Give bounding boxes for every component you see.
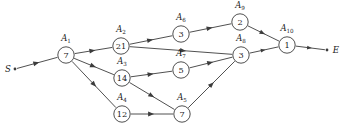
edge-A3-A5 (130, 83, 175, 110)
node-value-A2: 21 (116, 41, 126, 51)
arrow-head-icon (148, 92, 154, 97)
node-label-A6: A6 (175, 12, 186, 23)
node-value-A9: 2 (237, 17, 242, 27)
arrow-head-icon (259, 30, 265, 34)
graph-node-A9[interactable]: 2A9 (232, 0, 248, 30)
edge-A5-A8 (188, 61, 235, 108)
node-label-A5: A5 (176, 92, 187, 103)
edge-A3-A7 (131, 71, 173, 77)
start-node-dot-icon (14, 68, 17, 71)
edge-A8-A10 (250, 47, 279, 53)
graph-node-A4[interactable]: 12A4 (114, 92, 130, 122)
node-value-A6: 3 (178, 29, 183, 39)
edge-A10-E (296, 46, 325, 50)
edge-A4-A5 (131, 112, 173, 117)
arrow-head-icon (206, 26, 212, 31)
activity-network-diagram: 7A121A214A312A47A53A65A73A82A91A10 SE (0, 0, 343, 134)
node-label-A1: A1 (60, 33, 71, 44)
arrow-head-icon (90, 63, 96, 68)
arrow-head-icon (33, 62, 39, 67)
arrow-head-icon (147, 38, 153, 43)
node-label-A10: A10 (279, 23, 294, 34)
arrow-head-icon (147, 72, 153, 77)
edge-A1-A3 (74, 58, 114, 74)
node-value-A3: 14 (117, 73, 127, 83)
edge-A7-A8 (190, 57, 233, 68)
node-value-A7: 5 (178, 65, 183, 75)
node-value-A1: 7 (63, 50, 68, 60)
arrow-head-icon (89, 49, 95, 54)
node-value-A10: 1 (284, 40, 289, 50)
graph-node-A8[interactable]: 3A8 (233, 33, 249, 63)
edge-A6-A9 (190, 24, 232, 33)
edge-A9-A10 (248, 26, 279, 41)
node-value-A5: 7 (179, 109, 184, 119)
graph-node-A7[interactable]: 5A7 (173, 48, 189, 78)
graph-node-A6[interactable]: 3A6 (173, 12, 189, 42)
node-value-A8: 3 (238, 50, 243, 60)
edge-A1-A4 (72, 61, 116, 107)
node-label-A7: A7 (175, 48, 186, 59)
node-value-A4: 12 (117, 109, 127, 119)
graph-node-A5[interactable]: 7A5 (174, 92, 190, 122)
edge-S-A1 (17, 57, 57, 68)
arrow-head-icon (148, 112, 154, 117)
nodes-layer: 7A121A214A312A47A53A65A73A82A91A10 (58, 0, 295, 122)
graph-node-A1[interactable]: 7A1 (58, 33, 74, 63)
graph-node-A10[interactable]: 1A10 (279, 23, 295, 53)
node-label-A4: A4 (116, 92, 127, 103)
arrow-head-icon (307, 46, 312, 50)
terminal-start: S (5, 64, 16, 74)
end-label: E (332, 45, 340, 55)
network-graph-canvas: 7A121A214A312A47A53A65A73A82A91A10 SE (0, 0, 343, 134)
graph-node-A2[interactable]: 21A2 (113, 24, 129, 54)
terminal-end: E (326, 45, 340, 55)
end-node-dot-icon (326, 49, 329, 52)
node-label-A9: A9 (234, 0, 245, 11)
edge-A2-A6 (130, 36, 173, 45)
node-label-A3: A3 (116, 56, 127, 67)
node-label-A8: A8 (235, 33, 246, 44)
node-label-A2: A2 (115, 24, 126, 35)
start-label: S (5, 64, 11, 74)
graph-node-A3[interactable]: 14A3 (114, 56, 130, 86)
edge-A1-A2 (75, 47, 113, 53)
